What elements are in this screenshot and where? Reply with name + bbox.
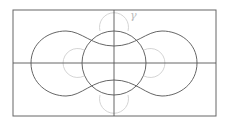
diagram-figure: [0, 0, 227, 123]
gamma-label: γ: [130, 10, 137, 21]
